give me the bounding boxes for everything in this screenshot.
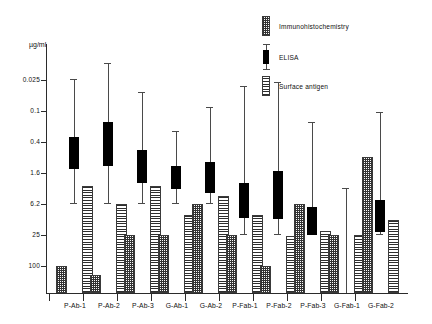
y-tick-label-3: 1.6 xyxy=(2,169,40,176)
y-tick-3 xyxy=(41,173,47,174)
y-tick-2 xyxy=(41,142,47,143)
legend-swatch-immunohistochemistry-icon xyxy=(262,16,270,36)
whisker-cap-top-elisa-p-ab-1 xyxy=(70,79,77,80)
whisker-cap-top-elisa-p-fab-1 xyxy=(240,86,247,87)
legend-label-elisa: ELISA xyxy=(279,54,299,61)
legend-label-surface-antigen: Surface antigen xyxy=(279,83,328,90)
bar-elisa-g-ab-1 xyxy=(171,166,181,189)
legend-item-surface-antigen: Surface antigen xyxy=(262,76,328,96)
legend-swatch-surface-antigen-icon xyxy=(262,76,270,96)
bar-elisa-g-fab-2 xyxy=(375,200,385,232)
whisker-cap-bottom-elisa-g-ab-2 xyxy=(206,203,213,204)
legend-item-elisa: ELISA xyxy=(262,44,299,70)
bar-surface-antigen-g-fab-2 xyxy=(388,220,399,293)
whisker-elisa-g-fab-1 xyxy=(346,188,347,293)
legend-swatch-elisa-icon xyxy=(262,44,270,70)
bar-immunohistochemistry-g-fab-1 xyxy=(328,235,339,293)
whisker-cap-bottom-elisa-g-ab-1 xyxy=(172,203,179,204)
bar-elisa-p-ab-3 xyxy=(137,150,147,183)
legend-elisa-cap-top-icon xyxy=(263,44,270,45)
bar-elisa-p-fab-1 xyxy=(239,183,249,218)
y-tick-label-0: 0.025 xyxy=(2,76,40,83)
y-axis-line xyxy=(46,44,47,294)
bar-elisa-p-ab-1 xyxy=(69,137,79,169)
chart-figure: Immunohistochemistry ELISA Surface antig… xyxy=(0,0,432,324)
x-tick-0 xyxy=(49,294,50,301)
y-tick-label-1: 0.1 xyxy=(2,107,40,114)
x-tick-6 xyxy=(253,294,254,301)
bar-elisa-p-fab-3 xyxy=(307,207,317,235)
bar-immunohistochemistry-g-ab-1 xyxy=(158,235,169,293)
bar-immunohistochemistry-p-fab-1 xyxy=(226,235,237,293)
y-tick-6 xyxy=(41,266,47,267)
bar-immunohistochemistry-p-ab-1 xyxy=(56,266,67,293)
legend-elisa-box-icon xyxy=(263,50,269,64)
bar-immunohistochemistry-g-fab-2 xyxy=(362,157,373,293)
whisker-cap-bottom-elisa-p-fab-1 xyxy=(240,234,247,235)
whisker-cap-bottom-elisa-g-fab-2 xyxy=(376,234,383,235)
y-tick-label-2: 0.4 xyxy=(2,138,40,145)
whisker-cap-top-elisa-p-ab-2 xyxy=(104,63,111,64)
legend-label-immunohistochemistry: Immunohistochemistry xyxy=(279,23,349,30)
bar-immunohistochemistry-p-fab-3 xyxy=(294,204,305,293)
whisker-cap-top-elisa-p-fab-2 xyxy=(274,82,281,83)
x-tick-2 xyxy=(117,294,118,301)
x-tick-1 xyxy=(83,294,84,301)
bar-immunohistochemistry-p-ab-3 xyxy=(124,235,135,293)
whisker-cap-top-elisa-g-ab-1 xyxy=(172,131,179,132)
whisker-cap-top-elisa-p-ab-3 xyxy=(138,92,145,93)
y-tick-label-5: 25 xyxy=(2,231,40,238)
whisker-elisa-p-ab-3 xyxy=(142,92,143,203)
whisker-cap-bottom-elisa-p-ab-3 xyxy=(138,203,145,204)
x-axis-line xyxy=(46,293,408,294)
y-tick-1 xyxy=(41,111,47,112)
y-tick-label-6: 100 xyxy=(2,262,40,269)
bar-elisa-p-ab-2 xyxy=(103,122,113,166)
x-tick-4 xyxy=(185,294,186,301)
x-tick-8 xyxy=(321,294,322,301)
whisker-cap-top-elisa-g-fab-1 xyxy=(342,188,349,189)
whisker-cap-top-elisa-p-fab-3 xyxy=(308,122,315,123)
x-tick-9 xyxy=(355,294,356,301)
x-tick-7 xyxy=(287,294,288,301)
bar-immunohistochemistry-p-fab-2 xyxy=(260,266,271,293)
x-tick-5 xyxy=(219,294,220,301)
whisker-cap-bottom-elisa-p-ab-2 xyxy=(104,203,111,204)
legend-item-immunohistochemistry: Immunohistochemistry xyxy=(262,16,349,36)
y-tick-5 xyxy=(41,235,47,236)
x-axis-label-g-fab-2: G-Fab-2 xyxy=(351,302,411,309)
bar-elisa-g-ab-2 xyxy=(205,162,215,193)
y-tick-label-4: 6.2 xyxy=(2,200,40,207)
bar-elisa-p-fab-2 xyxy=(273,171,283,219)
whisker-cap-top-elisa-g-ab-2 xyxy=(206,107,213,108)
bar-immunohistochemistry-g-ab-2 xyxy=(192,204,203,293)
x-tick-3 xyxy=(151,294,152,301)
y-tick-0 xyxy=(41,80,47,81)
y-tick-4 xyxy=(41,204,47,205)
y-axis-unit-label: µg/ml xyxy=(29,41,46,48)
bar-immunohistochemistry-p-ab-2 xyxy=(90,275,101,293)
whisker-cap-bottom-elisa-p-fab-2 xyxy=(274,234,281,235)
legend-elisa-cap-bottom-icon xyxy=(263,69,270,70)
whisker-cap-bottom-elisa-p-ab-1 xyxy=(70,203,77,204)
whisker-cap-top-elisa-g-fab-2 xyxy=(376,112,383,113)
